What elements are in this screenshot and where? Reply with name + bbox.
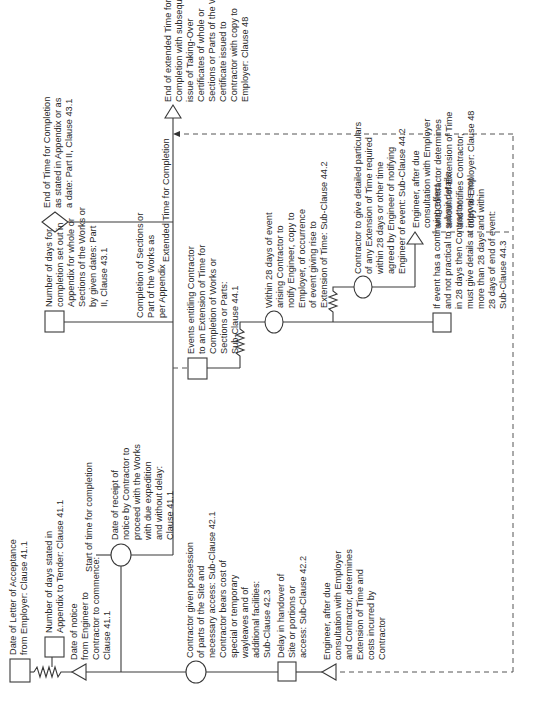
within-28-days-label: Within 28 days of event arising Contract… [264,161,329,308]
notice-to-commence-triangle [72,664,86,680]
receipt-of-notice-label: Date of receipt of notice by Contractor … [110,442,175,541]
delay-in-handover-square [278,662,296,681]
end-of-extended-time-triangle [165,105,181,118]
possession-of-site-circle [186,661,206,683]
within-28-days-circle [265,311,283,333]
extended-time-label: Extended Time for Completion [161,138,171,262]
possession-of-site-label: Contractor given possession of parts of … [185,509,272,659]
end-of-time-label: End of Time for Completion as stated in … [42,94,74,208]
engineer-determines-amount-triangle [407,232,423,244]
end-of-extended-time-label: End of extended Time for Completion with… [163,0,250,102]
continuing-effect-square [433,313,451,332]
days-for-completion-square [45,311,64,332]
arrowhead-icon [173,131,180,137]
detailed-particulars-circle [354,276,372,298]
days-in-appendix-square [45,637,64,657]
delay-in-handover-label: Delay in handover of Site or portions or… [276,556,308,658]
receipt-of-notice-circle [111,544,131,566]
letter-of-acceptance-square [10,659,30,682]
events-entitling-square [188,358,207,379]
detailed-particulars-label: Contractor to give detailed particulars … [353,119,407,275]
events-entitling-label: Events entitling Contractor to an Extens… [186,242,240,354]
zigzag-activity [34,667,72,677]
engineer-determines-costs-label: Engineer, after due consultation with Em… [322,547,387,660]
days-in-appendix-label: Number of days stated in Appendix to Ten… [44,500,65,633]
contract-time-network-diagram: Date of Letter of Acceptance from Employ… [0,0,535,712]
start-of-time-label: Start of time for completion [84,462,94,572]
engineer-determines-costs-triangle [322,664,336,680]
letter-of-acceptance-label: Date of Letter of Acceptance from Employ… [8,536,29,655]
engineer-determines-amount-label: Engineer, after due consultation with Em… [411,109,476,228]
